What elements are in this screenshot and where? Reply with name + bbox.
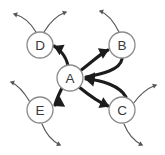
node-label-d: D xyxy=(35,38,45,53)
node-label-c: C xyxy=(117,103,127,118)
edge-d-out-upleft[interactable] xyxy=(14,14,36,32)
arrowhead-e-out-upleft xyxy=(10,80,15,85)
node-label-e: E xyxy=(35,103,44,118)
edge-c-out-upright[interactable] xyxy=(133,85,156,104)
node-c[interactable]: C xyxy=(109,97,135,123)
node-d[interactable]: D xyxy=(27,32,53,58)
node-label-b: B xyxy=(117,38,126,53)
arrowhead-d-out-upleft xyxy=(13,12,18,17)
node-label-a: A xyxy=(65,71,74,86)
edge-b-out-upleft[interactable] xyxy=(100,11,119,32)
node-a[interactable]: A xyxy=(57,65,83,91)
edge-d-out-upright[interactable] xyxy=(44,12,66,32)
edge-e-out-downright[interactable] xyxy=(42,124,60,145)
edge-c-out-downright[interactable] xyxy=(124,124,142,145)
node-b[interactable]: B xyxy=(109,32,135,58)
nodes-group: ABCDE xyxy=(27,32,135,123)
node-e[interactable]: E xyxy=(27,97,53,123)
graph-svg: ABCDE xyxy=(0,0,165,155)
diagram-canvas: ABCDE xyxy=(0,0,165,155)
edge-e-out-upleft[interactable] xyxy=(11,82,30,102)
